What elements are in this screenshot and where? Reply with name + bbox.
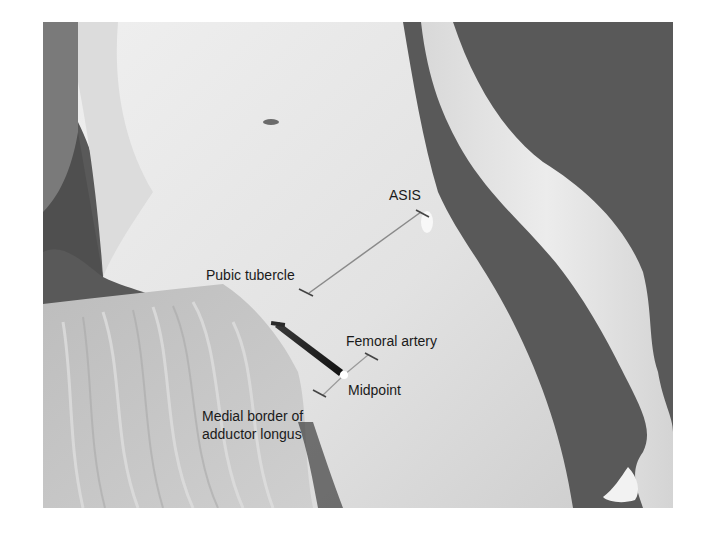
anatomy-figure: ASIS Pubic tubercle Femoral artery Midpo… — [43, 22, 673, 508]
label-medial-border-line1: Medial border of — [202, 408, 303, 425]
label-pubic-tubercle: Pubic tubercle — [206, 267, 295, 284]
label-midpoint: Midpoint — [348, 382, 401, 399]
anatomy-photo — [43, 22, 673, 508]
navel — [263, 119, 279, 125]
label-asis: ASIS — [389, 187, 421, 204]
label-femoral-artery: Femoral artery — [346, 333, 437, 350]
label-medial-border-line2: adductor longus — [202, 426, 302, 443]
